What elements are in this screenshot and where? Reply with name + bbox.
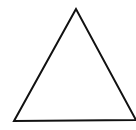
triangle-shape [14,9,136,121]
diagram-canvas [0,0,136,130]
